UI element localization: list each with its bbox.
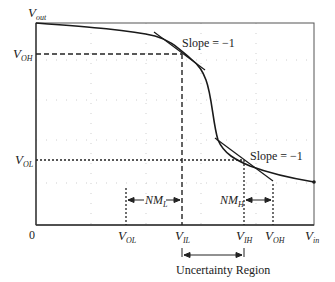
nmh-arrow: [246, 198, 271, 203]
x-axis-label: Vin: [305, 229, 319, 245]
origin-label: 0: [29, 229, 35, 241]
x-tick-vih: VIH: [236, 229, 252, 245]
y-tick-voh: VOH: [13, 47, 33, 63]
nml-label: NML: [145, 194, 167, 209]
y-axis-label: Vout: [28, 6, 46, 22]
x-tick-vol: VOL: [118, 229, 136, 245]
x-tick-voh: VOH: [265, 229, 285, 245]
uncertainty-region-label: Uncertainty Region: [176, 264, 270, 276]
slope-top-label: Slope = −1: [182, 37, 235, 49]
nmh-label: NMH: [220, 194, 244, 209]
curve-end-dot: [312, 180, 316, 184]
slope-bottom-label: Slope = −1: [250, 150, 303, 162]
x-tick-vil: VIL: [175, 229, 190, 245]
y-tick-vol: VOL: [15, 153, 33, 169]
uncertainty-bracket: [182, 248, 244, 258]
